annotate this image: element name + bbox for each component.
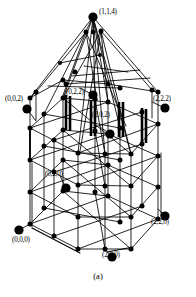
vertex-2-0-2 (105, 129, 114, 138)
vertex-label-0-2-2: (0,2,2) (66, 89, 84, 96)
vertex-label-2-2-0: (2,2,0) (151, 219, 169, 226)
vertex-label-2-0-2: (2,0,2) (92, 112, 110, 119)
vertex-2-2-2 (160, 103, 169, 112)
vertex-label-1-1-4: (1,1,4) (99, 9, 117, 16)
vertex-0-0-0 (14, 225, 23, 234)
vertex-1-1-4 (88, 12, 97, 21)
vertex-label-2-2-2: (2,2,2) (153, 96, 171, 103)
vertex-0-2-2 (88, 90, 97, 99)
lattice-diagram (0, 0, 196, 297)
vertex-0-2-0 (61, 183, 70, 192)
figure-container: (1,1,4) (0,2,2) (0,0,2) (2,2,2) (2,0,2) … (0, 0, 196, 297)
vertex-label-0-2-0: (0,2,0) (45, 171, 63, 178)
vertex-label-0-0-2: (0,0,2) (5, 96, 23, 103)
vertex-label-0-0-0: (0,0,0) (12, 237, 30, 244)
vertex-0-0-2 (22, 104, 31, 113)
figure-caption: (a) (0, 271, 196, 281)
vertex-label-2-0-0: (2,0,0) (102, 252, 120, 259)
